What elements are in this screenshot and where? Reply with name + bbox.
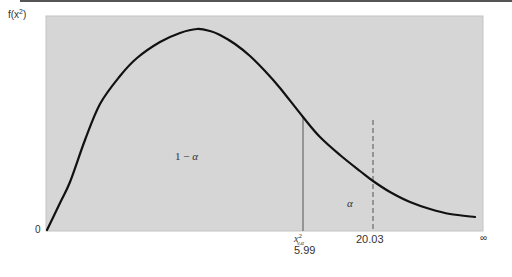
- acceptance-region-label: 1 − α: [175, 150, 198, 162]
- chi-square-plot: [0, 0, 512, 277]
- observed-statistic-label: 20.03: [356, 233, 384, 245]
- critical-value-label: 5.99: [294, 244, 315, 256]
- x-origin-label: 0: [35, 224, 41, 235]
- plot-area: [46, 16, 483, 231]
- rejection-region-label: α: [347, 197, 353, 209]
- x-infinity-label: ∞: [480, 232, 487, 243]
- y-axis-label: f(x2): [8, 8, 26, 20]
